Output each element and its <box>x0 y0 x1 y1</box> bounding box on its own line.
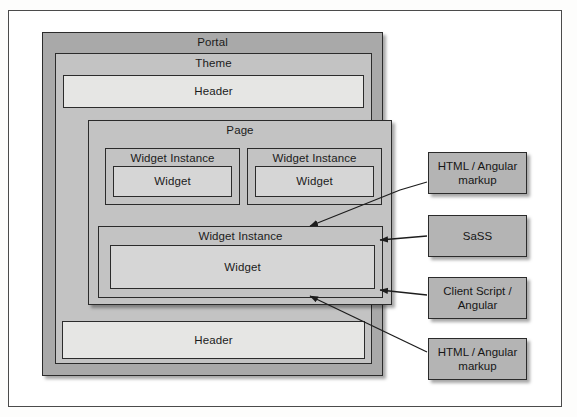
portal-label: Portal <box>43 33 382 49</box>
widget-instance-3-label: Widget Instance <box>99 227 382 243</box>
header-top: Header <box>63 75 364 108</box>
note-html-angular-markup-top: HTML / Angular markup <box>428 152 527 194</box>
widget-3: Widget <box>110 245 375 289</box>
header-bottom-label: Header <box>63 334 364 347</box>
diagram-canvas: Portal Theme Header Page Widget Instance… <box>0 0 577 417</box>
header-bottom: Header <box>62 321 365 359</box>
widget-1: Widget <box>113 166 232 197</box>
widget-3-label: Widget <box>111 261 374 274</box>
widget-2-label: Widget <box>256 175 373 188</box>
note-2-label: SaSS <box>429 229 526 243</box>
widget-1-label: Widget <box>114 175 231 188</box>
note-client-script-angular: Client Script / Angular <box>428 277 527 319</box>
note-4-label: HTML / Angular markup <box>429 345 526 373</box>
widget-2: Widget <box>255 166 374 197</box>
widget-instance-1-label: Widget Instance <box>106 149 239 165</box>
theme-label: Theme <box>56 54 371 70</box>
page-label: Page <box>89 121 391 137</box>
header-top-label: Header <box>64 85 363 98</box>
note-sass: SaSS <box>428 215 527 257</box>
note-3-label: Client Script / Angular <box>429 284 526 312</box>
note-html-angular-markup-bottom: HTML / Angular markup <box>428 338 527 380</box>
note-1-label: HTML / Angular markup <box>429 159 526 187</box>
widget-instance-2-label: Widget Instance <box>248 149 381 165</box>
